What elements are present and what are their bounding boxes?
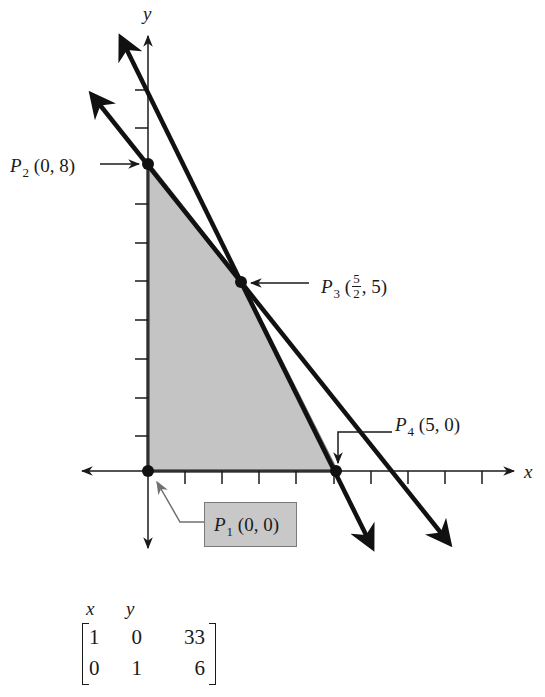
feasible-region <box>148 164 336 471</box>
x-axis-label: x <box>524 462 532 481</box>
point-p4 <box>330 465 342 477</box>
matrix-left-bracket <box>82 623 89 685</box>
p4-label: P4 (5, 0) <box>395 415 460 434</box>
matrix-cell: 1 <box>89 625 109 650</box>
matrix-header-y: y <box>126 598 134 620</box>
p1-label-box: P1 (0, 0) <box>204 502 297 547</box>
point-p3 <box>235 276 247 288</box>
linear-programming-graph: y x P2 (0, 8) P3 (52, 5) P4 (5, 0) P1 (0… <box>0 0 545 697</box>
p3-label: P3 (52, 5) <box>321 274 387 302</box>
matrix-cell: 0 <box>118 625 142 650</box>
p1-pointer-arrow <box>157 482 206 522</box>
matrix-cell: 33 <box>181 625 205 650</box>
plot-canvas <box>0 0 545 697</box>
matrix-cell: 0 <box>89 656 109 681</box>
point-p2 <box>142 158 154 170</box>
p3-x-fraction: 52 <box>352 272 361 300</box>
point-p1 <box>142 465 154 477</box>
y-axis-label: y <box>143 4 151 23</box>
matrix-cell: 6 <box>181 656 205 681</box>
p2-label: P2 (0, 8) <box>10 156 75 175</box>
matrix-header-x: x <box>86 598 94 620</box>
p1-label: P1 (0, 0) <box>214 515 279 534</box>
matrix-right-bracket <box>209 623 216 685</box>
matrix-cell: 1 <box>118 656 142 681</box>
